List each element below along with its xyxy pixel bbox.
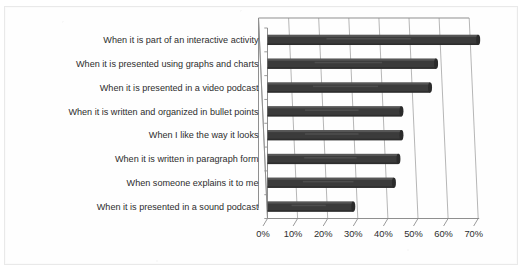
value-tick-50 — [414, 219, 419, 227]
gridline-40 — [379, 18, 388, 219]
x-tick-label-20: 20% — [314, 229, 333, 239]
gridline-20 — [319, 18, 328, 219]
bar-1 — [268, 59, 439, 69]
bar-6 — [268, 178, 396, 188]
x-tick-label-0: 0% — [256, 229, 269, 239]
value-tick-10 — [293, 219, 298, 227]
bar-chart: When it is part of an interactive activi… — [0, 0, 523, 272]
bar-2 — [268, 82, 433, 92]
category-label-4: When I like the way it looks — [149, 130, 259, 140]
gridline-10 — [289, 18, 298, 219]
x-tick-label-60: 60% — [434, 229, 453, 239]
gridlines-group — [259, 18, 479, 219]
x-tick-label-40: 40% — [374, 229, 393, 239]
gridline-60 — [439, 18, 448, 219]
category-label-7: When it is presented in a sound podcast — [97, 202, 259, 212]
category-label-6: When someone explains it to me — [127, 178, 259, 188]
x-tick-label-70: 70% — [464, 229, 483, 239]
category-axis-depth-edge — [259, 18, 268, 219]
bars-group — [268, 35, 481, 212]
x-tick-label-10: 10% — [284, 229, 303, 239]
value-tick-0 — [263, 219, 268, 227]
gridline-70 — [469, 18, 478, 219]
x-tick-label-30: 30% — [344, 229, 363, 239]
category-label-5: When it is written in paragraph form — [115, 154, 259, 164]
category-labels-group: When it is part of an interactive activi… — [68, 35, 259, 212]
x-tick-labels-group: 0%10%20%30%40%50%60%70% — [256, 229, 483, 239]
axes-group — [259, 18, 480, 226]
category-label-2: When it is presented in a video podcast — [100, 83, 259, 93]
bar-0 — [268, 35, 481, 45]
bar-5 — [268, 154, 401, 164]
value-tick-70 — [474, 219, 479, 227]
category-label-0: When it is part of an interactive activi… — [103, 35, 259, 45]
value-tick-30 — [353, 219, 358, 227]
x-tick-label-50: 50% — [404, 229, 423, 239]
gridline-30 — [349, 18, 358, 219]
bar-7 — [268, 201, 356, 211]
bar-4 — [268, 130, 404, 140]
bar-3 — [268, 106, 404, 116]
category-label-3: When it is written and organized in bull… — [68, 107, 259, 117]
value-tick-40 — [383, 219, 388, 227]
value-tick-60 — [444, 219, 449, 227]
value-tick-20 — [323, 219, 328, 227]
gridline-50 — [409, 18, 418, 219]
category-label-1: When it is presented using graphs and ch… — [76, 59, 259, 69]
